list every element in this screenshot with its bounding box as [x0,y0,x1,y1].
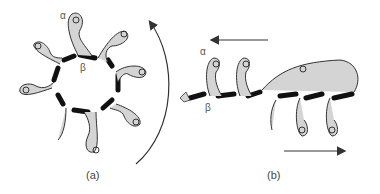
beta-label-a: β [80,63,86,73]
alpha-label-a: α [60,11,66,21]
panel-label-b: (b) [267,170,280,181]
alpha-helices-lower [271,98,338,136]
alpha-helices-ring [20,13,146,153]
diagram-figure [0,0,380,194]
beta-strands-ring [54,55,118,112]
panel-b-solenoid [180,40,358,151]
beta-strands-lower [280,94,352,98]
alpha-label-b: α [200,47,206,57]
alpha-helices-upper [207,58,358,96]
panel-a-barrel [20,13,169,164]
beta-label-b: β [205,103,211,113]
rotation-arrow-icon [136,22,169,164]
diagram-canvas: α β (a) α β (b) [0,0,380,194]
panel-label-a: (a) [86,170,99,181]
